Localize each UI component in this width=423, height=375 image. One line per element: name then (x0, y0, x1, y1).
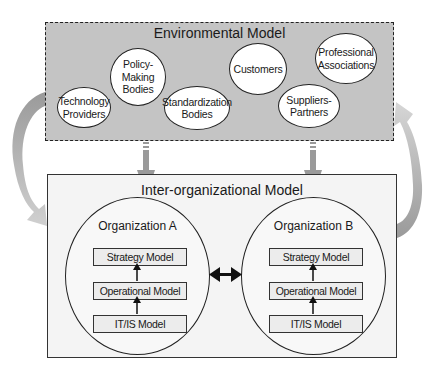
org-a-itis-model: IT/IS Model (93, 315, 187, 333)
organization-a-title: Organization A (66, 219, 209, 233)
org-b-operational-model: Operational Model (269, 282, 363, 300)
entity-professional-associations: ProfessionalAssociations (315, 33, 377, 84)
org-b-itis-model: IT/IS Model (269, 315, 363, 333)
org-b-strategy-model: Strategy Model (269, 248, 363, 266)
entity-technology-providers: TechnologyProviders (57, 87, 111, 128)
entity-suppliers-partners: Suppliers-Partners (278, 84, 340, 128)
organization-b: Organization B Strategy Model Operationa… (241, 197, 386, 355)
organization-b-title: Organization B (242, 219, 385, 233)
entity-standardization-bodies: StandardizationBodies (164, 86, 230, 130)
right-curved-arrow-icon (394, 102, 422, 238)
org-a-strategy-model: Strategy Model (93, 248, 187, 266)
entity-policy-making-bodies: Policy-MakingBodies (110, 48, 166, 106)
left-curved-arrow-icon (12, 92, 47, 226)
inter-organizational-model-title: Inter-organizational Model (48, 182, 396, 198)
organization-a: Organization A Strategy Model Operationa… (65, 197, 210, 355)
org-a-operational-model: Operational Model (93, 282, 187, 300)
entity-customers: Customers (229, 43, 287, 95)
